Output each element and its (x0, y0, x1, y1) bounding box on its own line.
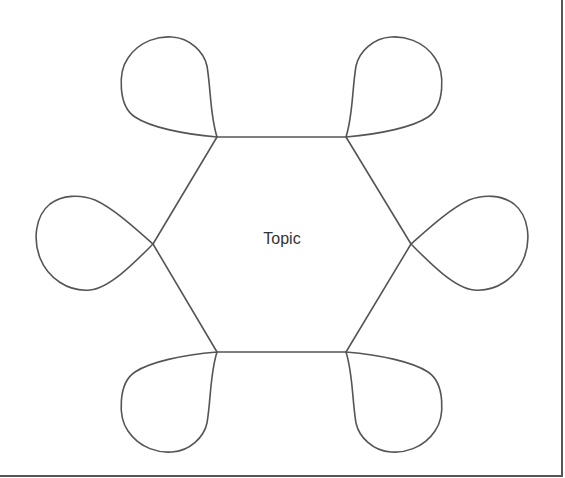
hexagon-edge-bottom-right (346, 244, 411, 352)
loop-top-left (121, 37, 217, 137)
loop-top-right (346, 37, 442, 137)
loop-bottom-left (121, 352, 217, 452)
hexagon-edge-top-left (153, 137, 217, 244)
hexagon-edge-bottom-left (153, 244, 217, 352)
loop-bottom-right (346, 352, 442, 452)
topic-label: Topic (232, 230, 332, 248)
loop-right (411, 196, 528, 290)
hexagon-edge-top-right (346, 137, 411, 244)
loop-left (36, 196, 153, 290)
